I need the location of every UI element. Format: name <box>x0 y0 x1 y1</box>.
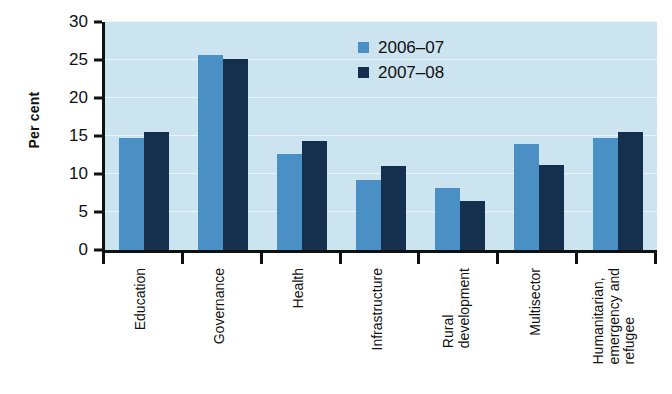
x-axis-label-line: emergency and <box>606 268 622 365</box>
bar <box>356 180 381 250</box>
x-axis-label-line: development <box>457 268 473 348</box>
bar <box>514 144 539 250</box>
legend-item[interactable]: 2007–08 <box>358 63 444 82</box>
x-tick-mark <box>260 253 263 264</box>
x-tick-mark <box>102 253 105 264</box>
x-axis-label-line: Health <box>291 268 306 308</box>
x-tick-mark <box>339 253 342 264</box>
y-tick-label: 5 <box>42 202 88 222</box>
legend-label: 2007–08 <box>378 63 444 83</box>
x-tick-mark <box>181 253 184 264</box>
bar <box>539 165 564 250</box>
bar-group <box>578 22 657 250</box>
bar-group <box>105 22 184 250</box>
bar <box>460 201 485 250</box>
bar-group <box>263 22 342 250</box>
x-axis-label: Education <box>133 268 148 330</box>
y-tick-mark <box>94 249 102 252</box>
bar <box>435 188 460 250</box>
y-tick-mark <box>94 59 102 62</box>
bar-group <box>184 22 263 250</box>
legend-label: 2006–07 <box>378 38 444 58</box>
bar <box>277 154 302 250</box>
y-tick-label: 25 <box>42 50 88 70</box>
chart-legend: 2006–072007–08 <box>358 38 444 88</box>
x-axis-label-line: Infrastructure <box>370 268 385 350</box>
x-axis-label-line: Education <box>133 268 148 330</box>
x-tick-mark <box>575 253 578 264</box>
y-axis-ticks: 051015202530 <box>48 22 102 250</box>
x-tick-mark <box>417 253 420 264</box>
y-axis-title: Per cent <box>26 60 42 180</box>
x-axis-label-line: Rural <box>441 268 457 348</box>
y-tick-label: 15 <box>42 126 88 146</box>
y-tick-label: 30 <box>42 12 88 32</box>
bar <box>223 59 248 250</box>
y-tick-mark <box>94 97 102 100</box>
x-tick-mark <box>654 253 657 264</box>
x-axis-label: Multisector <box>528 268 543 336</box>
bar <box>198 55 223 250</box>
x-axis-label-line: Multisector <box>528 268 543 336</box>
y-tick-mark <box>94 173 102 176</box>
y-tick-label: 0 <box>42 240 88 260</box>
bar <box>618 132 643 250</box>
y-tick-mark <box>94 135 102 138</box>
y-tick-mark <box>94 21 102 24</box>
x-axis-label-line: Humanitarian, <box>591 268 607 365</box>
x-axis-label-line: refugee <box>622 268 638 365</box>
x-axis-label: Infrastructure <box>370 268 385 350</box>
x-axis-label: Humanitarian,emergency andrefugee <box>591 268 638 365</box>
legend-swatch <box>358 42 369 53</box>
bar-chart: Per cent 051015202530 EducationGovernanc… <box>0 0 672 394</box>
y-tick-mark <box>94 211 102 214</box>
x-axis-label: Health <box>291 268 306 308</box>
bar <box>144 132 169 250</box>
x-axis-label-line: Governance <box>212 268 227 344</box>
legend-item[interactable]: 2006–07 <box>358 38 444 57</box>
bar <box>119 138 144 250</box>
legend-swatch <box>358 67 369 78</box>
bar <box>593 138 618 250</box>
bar <box>381 166 406 250</box>
x-tick-mark <box>496 253 499 264</box>
y-tick-label: 10 <box>42 164 88 184</box>
bar-group <box>499 22 578 250</box>
bar <box>302 141 327 250</box>
x-axis-label: Ruraldevelopment <box>441 268 472 348</box>
x-axis-label: Governance <box>212 268 227 344</box>
y-tick-label: 20 <box>42 88 88 108</box>
